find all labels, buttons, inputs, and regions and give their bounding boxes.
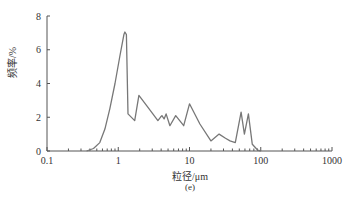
distribution-curve bbox=[87, 32, 261, 151]
svg-text:1000: 1000 bbox=[322, 155, 342, 166]
ticks: 024680.11101001000 bbox=[36, 11, 342, 167]
svg-text:10: 10 bbox=[185, 155, 195, 166]
svg-text:0.1: 0.1 bbox=[41, 155, 54, 166]
axes bbox=[47, 16, 332, 151]
svg-text:1: 1 bbox=[116, 155, 121, 166]
x-axis-label: 粒径/μm bbox=[0, 168, 361, 183]
svg-text:4: 4 bbox=[36, 78, 41, 89]
svg-text:6: 6 bbox=[36, 44, 41, 55]
svg-text:8: 8 bbox=[36, 11, 41, 22]
svg-text:2: 2 bbox=[36, 112, 41, 123]
figure-caption: (e) bbox=[0, 182, 361, 192]
y-axis-label: 频率/% bbox=[4, 47, 19, 78]
svg-text:100: 100 bbox=[253, 155, 268, 166]
